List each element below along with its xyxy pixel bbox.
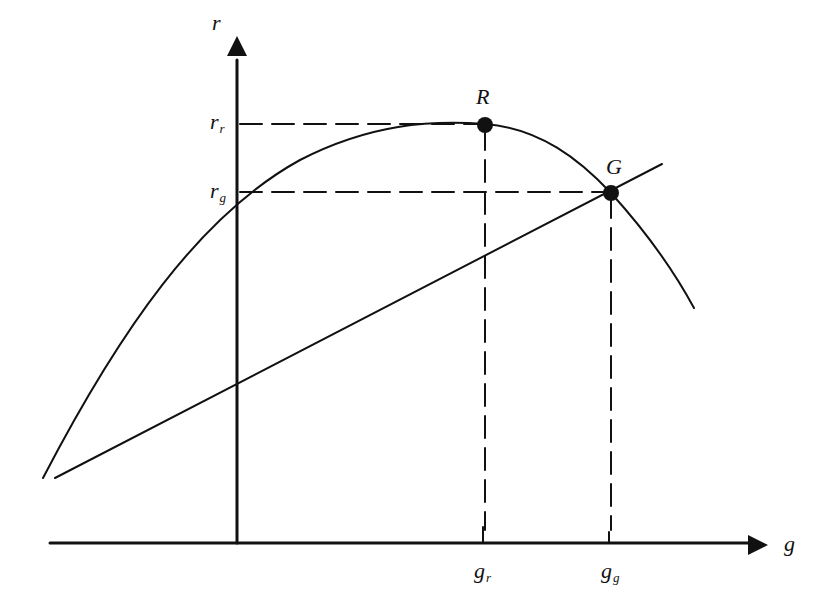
- tick-label-r-g: rg: [210, 180, 226, 204]
- y-axis-arrow-icon: [227, 36, 247, 56]
- tick-label-g-g-sub: g: [613, 570, 620, 585]
- tick-label-g-g-main: g: [601, 558, 612, 583]
- x-axis-label: g: [784, 533, 795, 555]
- straight-line: [55, 164, 662, 478]
- diagram-canvas: r g rr rg gr gg R G: [0, 0, 833, 603]
- tick-label-g-r: gr: [474, 560, 491, 584]
- tick-label-g-r-sub: r: [486, 570, 491, 585]
- tick-label-r-r: rr: [210, 111, 225, 135]
- tick-label-r-r-main: r: [210, 109, 219, 134]
- tick-label-g-g: gg: [601, 560, 620, 584]
- tick-label-r-g-main: r: [210, 178, 219, 203]
- x-axis-arrow-icon: [748, 535, 768, 555]
- point-G-marker: [603, 185, 619, 201]
- point-R-marker: [477, 117, 493, 133]
- tick-label-g-r-main: g: [474, 558, 485, 583]
- y-axis-label: r: [212, 12, 221, 34]
- tick-label-r-g-sub: g: [220, 190, 227, 205]
- hump-curve: [43, 123, 694, 478]
- diagram-svg: [0, 0, 833, 603]
- point-R-label: R: [476, 86, 489, 108]
- tick-label-r-r-sub: r: [220, 121, 225, 136]
- point-G-label: G: [606, 156, 622, 178]
